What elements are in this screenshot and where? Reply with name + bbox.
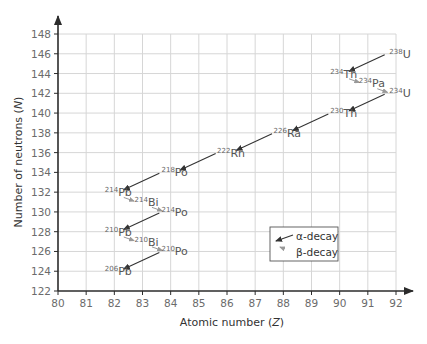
y-tick-label: 142 bbox=[31, 87, 51, 99]
x-tick-label: 83 bbox=[136, 297, 149, 309]
nuclide-label: 218Po bbox=[161, 166, 188, 179]
nuclide-label: 214Bi bbox=[135, 196, 159, 209]
y-tick-label: 146 bbox=[31, 48, 51, 60]
nuclide-label: 214Po bbox=[161, 206, 188, 219]
x-tick-label: 86 bbox=[220, 297, 234, 309]
y-tick-label: 124 bbox=[31, 265, 51, 277]
x-tick-label: 88 bbox=[277, 297, 290, 309]
nuclide-label: 214Pb bbox=[105, 186, 132, 199]
y-axis-label: Number of neutrons (N) bbox=[12, 97, 25, 228]
y-tick-label: 138 bbox=[31, 127, 51, 139]
y-tick-label: 136 bbox=[31, 147, 51, 159]
nuclide-label: 234Pa bbox=[359, 77, 385, 90]
nuclide-labels: 238U234Th234Pa234U230Th226Ra222Rn218Po21… bbox=[105, 48, 411, 278]
decay-chart: 8081828384858687888990919212212412612813… bbox=[0, 0, 427, 344]
x-tick-label: 80 bbox=[51, 297, 64, 309]
x-tick-label: 91 bbox=[361, 297, 374, 309]
x-tick-label: 85 bbox=[192, 297, 205, 309]
x-tick-label: 92 bbox=[389, 297, 402, 309]
nuclide-label: 210Po bbox=[161, 245, 188, 258]
y-tick-label: 148 bbox=[31, 28, 51, 40]
x-tick-label: 90 bbox=[333, 297, 346, 309]
x-tick-label: 82 bbox=[108, 297, 121, 309]
y-tick-label: 128 bbox=[31, 226, 51, 238]
y-tick-label: 134 bbox=[31, 166, 51, 178]
nuclide-label: 234U bbox=[389, 87, 410, 100]
x-tick-label: 84 bbox=[164, 297, 178, 309]
nuclide-label: 222Rn bbox=[217, 147, 245, 160]
y-tick-label: 140 bbox=[31, 107, 51, 119]
nuclide-label: 238U bbox=[389, 48, 410, 61]
nuclide-label: 210Bi bbox=[135, 236, 159, 249]
legend: α-decayβ-decay bbox=[270, 227, 338, 261]
nuclide-label: 230Th bbox=[330, 107, 357, 120]
x-tick-label: 89 bbox=[305, 297, 318, 309]
y-tick-label: 122 bbox=[31, 285, 51, 297]
y-tick-label: 144 bbox=[31, 68, 51, 80]
legend-beta-label: β-decay bbox=[296, 246, 338, 258]
y-tick-label: 126 bbox=[31, 245, 51, 257]
y-tick-label: 130 bbox=[31, 206, 51, 218]
nuclide-label: 210Pb bbox=[105, 226, 132, 239]
nuclide-label: 226Ra bbox=[274, 127, 302, 140]
nuclide-label: 206Pb bbox=[105, 265, 132, 278]
y-tick-label: 132 bbox=[31, 186, 51, 198]
x-axis-label: Atomic number (Z) bbox=[180, 316, 284, 329]
x-tick-label: 87 bbox=[248, 297, 261, 309]
legend-alpha-label: α-decay bbox=[296, 230, 338, 242]
nuclide-label: 234Th bbox=[330, 68, 357, 81]
x-tick-label: 81 bbox=[79, 297, 92, 309]
